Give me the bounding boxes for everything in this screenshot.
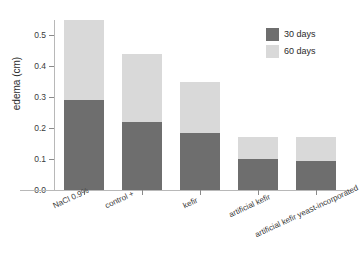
legend-item: 30 days: [266, 26, 356, 42]
x-tick-mark: [258, 190, 259, 195]
x-tick-mark: [142, 190, 143, 195]
x-tick-label: kefir: [182, 197, 199, 211]
bar-group: [122, 20, 163, 190]
y-tick-label: 0.1: [14, 155, 46, 164]
x-tick-mark: [200, 190, 201, 195]
legend-item: 60 days: [266, 43, 356, 59]
bar-segment-60-days: [238, 137, 279, 159]
chart-legend: 30 days60 days: [266, 26, 356, 60]
legend-swatch: [266, 28, 279, 41]
x-tick-mark: [316, 190, 317, 195]
bar-segment-30-days: [64, 100, 105, 190]
y-tick-label: 0.5: [14, 31, 46, 40]
x-axis-line: [20, 190, 350, 191]
x-tick-label: artificial kefir yeast-incorporated: [254, 184, 360, 239]
chart-figure: edema (cm) 0.00.10.20.30.40.5 NaCl 0.9%c…: [0, 0, 363, 279]
bar-segment-30-days: [296, 161, 337, 190]
bar-segment-30-days: [238, 159, 279, 190]
bar-group: [64, 20, 105, 190]
bar-segment-30-days: [122, 122, 163, 190]
y-tick-label: 0.4: [14, 62, 46, 71]
y-tick-label: 0.2: [14, 124, 46, 133]
y-tick-label: 0.3: [14, 93, 46, 102]
bar-segment-60-days: [122, 54, 163, 122]
bar-segment-60-days: [296, 137, 337, 160]
bar-group: [180, 20, 221, 190]
bar-segment-30-days: [180, 133, 221, 190]
legend-label: 30 days: [284, 30, 316, 39]
bar-segment-60-days: [180, 82, 221, 133]
legend-swatch: [266, 45, 279, 58]
legend-label: 60 days: [284, 47, 316, 56]
bar-segment-60-days: [64, 20, 105, 100]
x-tick-label: artificial kefir: [228, 193, 272, 219]
x-tick-label: control +: [104, 190, 135, 210]
